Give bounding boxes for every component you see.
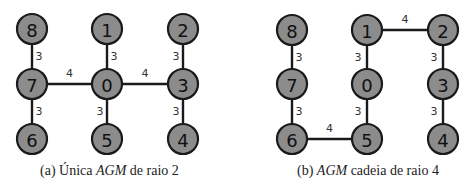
- edge-weight-label: 4: [66, 67, 73, 80]
- edge-weight-label: 3: [431, 105, 438, 118]
- node-7: 7: [17, 69, 47, 99]
- edge-weight-label: 3: [173, 105, 180, 118]
- edge-weight-label: 3: [97, 105, 104, 118]
- caption-a-em: AGM: [96, 163, 126, 178]
- edge-weight-label: 3: [355, 51, 362, 64]
- node-label: 8: [26, 20, 37, 41]
- node-label: 6: [26, 130, 37, 151]
- node-label: 8: [286, 21, 297, 42]
- edge-weight-label: 3: [111, 50, 118, 63]
- node-label: 3: [437, 75, 448, 96]
- node-label: 4: [437, 130, 448, 151]
- graph-a: 33344333812703654: [17, 14, 198, 154]
- node-label: 1: [361, 21, 372, 42]
- node-4: 4: [428, 124, 458, 154]
- node-2: 2: [168, 14, 198, 44]
- node-3: 3: [168, 69, 198, 99]
- graph-b: 34333334812703654: [277, 13, 458, 155]
- node-label: 5: [101, 130, 112, 151]
- node-0: 0: [92, 69, 122, 99]
- node-5: 5: [92, 124, 122, 154]
- node-label: 2: [437, 21, 448, 42]
- caption-b: (b) AGM cadeia de raio 4: [297, 163, 439, 179]
- edge-weight-label: 3: [355, 105, 362, 118]
- edge-weight-label: 4: [326, 122, 333, 135]
- caption-b-prefix: (b): [297, 163, 317, 178]
- caption-a: (a) Única AGM de raio 2: [40, 163, 179, 179]
- node-7: 7: [277, 69, 307, 99]
- node-0: 0: [352, 69, 382, 99]
- node-8: 8: [17, 14, 47, 44]
- graph-canvas: 3334433381270365434333334812703654: [0, 0, 470, 190]
- caption-b-em: AGM: [317, 163, 347, 178]
- node-2: 2: [428, 15, 458, 45]
- node-1: 1: [92, 14, 122, 44]
- node-6: 6: [17, 124, 47, 154]
- node-label: 4: [177, 130, 188, 151]
- node-5: 5: [352, 124, 382, 154]
- edge-weight-label: 3: [431, 51, 438, 64]
- node-label: 1: [101, 20, 112, 41]
- node-8: 8: [277, 15, 307, 45]
- edge-weight-label: 4: [402, 13, 409, 26]
- node-label: 5: [361, 130, 372, 151]
- node-label: 6: [286, 130, 297, 151]
- node-label: 0: [101, 75, 112, 96]
- edge-weight-label: 3: [296, 105, 303, 118]
- node-label: 7: [26, 75, 37, 96]
- edge-weight-label: 3: [173, 50, 180, 63]
- node-6: 6: [277, 124, 307, 154]
- caption-a-prefix: (a) Única: [40, 163, 96, 178]
- node-label: 3: [177, 75, 188, 96]
- node-label: 0: [361, 75, 372, 96]
- node-label: 7: [286, 75, 297, 96]
- edge-weight-label: 3: [36, 105, 43, 118]
- caption-a-suffix: de raio 2: [126, 163, 178, 178]
- caption-b-suffix: cadeia de raio 4: [347, 163, 439, 178]
- edge-weight-label: 4: [142, 67, 149, 80]
- node-label: 2: [177, 20, 188, 41]
- node-4: 4: [168, 124, 198, 154]
- node-1: 1: [352, 15, 382, 45]
- node-3: 3: [428, 69, 458, 99]
- edge-weight-label: 3: [36, 50, 43, 63]
- edge-weight-label: 3: [296, 51, 303, 64]
